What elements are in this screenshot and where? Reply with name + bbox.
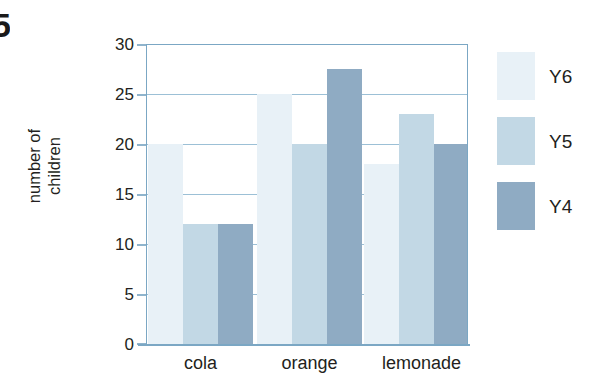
legend-swatch-y5 <box>497 117 535 165</box>
y-tick-25 <box>137 94 147 96</box>
legend-entry-y6: Y6 <box>497 52 572 100</box>
legend-swatch-y6 <box>497 52 535 100</box>
y-axis-title: number of children <box>20 86 68 246</box>
page-edge-artifact-glyph: 5 <box>0 8 10 42</box>
bar-cola-y4 <box>218 224 253 344</box>
bar-lemonade-y4 <box>434 144 467 344</box>
x-category-label-lemonade: lemonade <box>364 352 479 374</box>
bar-cola-y6 <box>148 144 183 344</box>
legend-label-y4: Y4 <box>549 197 572 216</box>
y-tick-30 <box>137 44 147 46</box>
x-axis-baseline <box>138 344 470 346</box>
legend-label-y6: Y6 <box>549 67 572 86</box>
y-tick-label-5: 5 <box>90 286 134 303</box>
bar-orange-y5 <box>292 144 327 344</box>
y-tick-label-10: 10 <box>90 236 134 253</box>
y-tick-label-30: 30 <box>90 36 134 53</box>
y-tick-15 <box>137 194 147 196</box>
legend-label-y5: Y5 <box>549 132 572 151</box>
plot-area <box>146 44 468 344</box>
y-tick-label-0: 0 <box>90 336 134 353</box>
x-category-label-cola: cola <box>148 352 253 374</box>
y-axis-title-line-2: children <box>44 137 64 195</box>
legend-entry-y5: Y5 <box>497 117 572 165</box>
y-tick-label-15: 15 <box>90 186 134 203</box>
y-tick-label-25: 25 <box>90 86 134 103</box>
y-tick-5 <box>137 294 147 296</box>
x-category-label-orange: orange <box>257 352 362 374</box>
bar-lemonade-y6 <box>364 164 399 344</box>
bar-lemonade-y5 <box>399 114 434 344</box>
bar-cola-y5 <box>183 224 218 344</box>
legend-swatch-y4 <box>497 182 535 230</box>
bar-chart-figure: 5 number of children 30 25 20 15 10 5 0 <box>0 0 603 387</box>
legend-entry-y4: Y4 <box>497 182 572 230</box>
y-tick-20 <box>137 144 147 146</box>
y-tick-label-20: 20 <box>90 136 134 153</box>
gridline-30 <box>146 44 468 45</box>
gridline-25 <box>146 94 468 95</box>
y-axis-title-line-1: number of <box>24 129 44 203</box>
y-tick-10 <box>137 244 147 246</box>
bar-orange-y6 <box>257 94 292 344</box>
bar-orange-y4 <box>327 69 362 344</box>
